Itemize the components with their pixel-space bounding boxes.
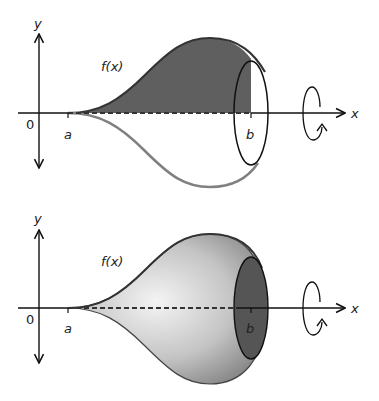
function-label: f(x) xyxy=(101,59,123,74)
panel-top: y x 0 a b f(x) xyxy=(18,16,359,187)
y-axis-label: y xyxy=(33,211,42,226)
solid-of-revolution-figure: y x 0 a b f(x) y x 0 a b f(x) xyxy=(0,0,379,401)
function-label: f(x) xyxy=(101,254,123,269)
panel-bottom: y x 0 a b f(x) xyxy=(18,211,359,384)
origin-label: 0 xyxy=(26,312,34,327)
shaded-region xyxy=(68,38,262,113)
y-axis-label: y xyxy=(33,16,42,31)
b-label: b xyxy=(246,127,254,142)
x-axis-label: x xyxy=(350,106,359,121)
x-axis-label: x xyxy=(350,301,359,316)
origin-label: 0 xyxy=(26,117,34,132)
b-label: b xyxy=(246,321,254,336)
a-label: a xyxy=(64,321,72,336)
a-label: a xyxy=(64,127,72,142)
reflected-curve xyxy=(68,113,258,187)
